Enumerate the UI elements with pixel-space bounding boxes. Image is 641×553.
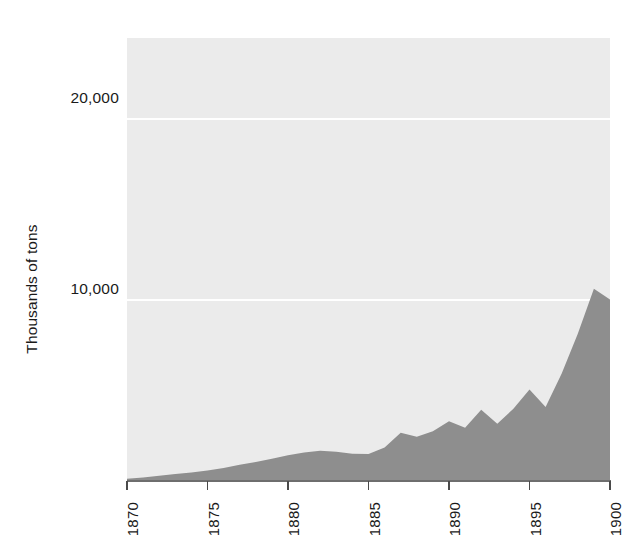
y-axis-tick-label-10000: 10,000 [33,280,119,298]
x-axis-tick-label-1870: 1870 [125,502,141,553]
x-axis-tick-label-1885: 1885 [367,502,383,553]
x-axis-tick-mark-1895 [529,481,531,490]
x-axis-tick-label-1895: 1895 [528,502,544,553]
x-axis-tick-mark-1875 [207,481,209,490]
area-series-output [127,38,610,480]
x-axis-tick-mark-1870 [126,481,128,490]
x-axis-tick-label-1875: 1875 [206,502,222,553]
x-axis-tick-mark-1885 [368,481,370,490]
area-path [127,289,610,480]
x-axis-tick-mark-1900 [609,481,611,490]
x-axis-tick-mark-1880 [287,481,289,490]
y-axis-tick-label-20000: 20,000 [33,89,119,107]
plot-area [127,38,610,480]
x-axis-tick-label-1880: 1880 [286,502,302,553]
area-chart: Thousands of tons 20,000 10,000 18701875… [0,0,641,553]
x-axis-tick-label-1890: 1890 [447,502,463,553]
x-axis-tick-label-1900: 1900 [608,502,624,553]
x-axis-tick-mark-1890 [448,481,450,490]
